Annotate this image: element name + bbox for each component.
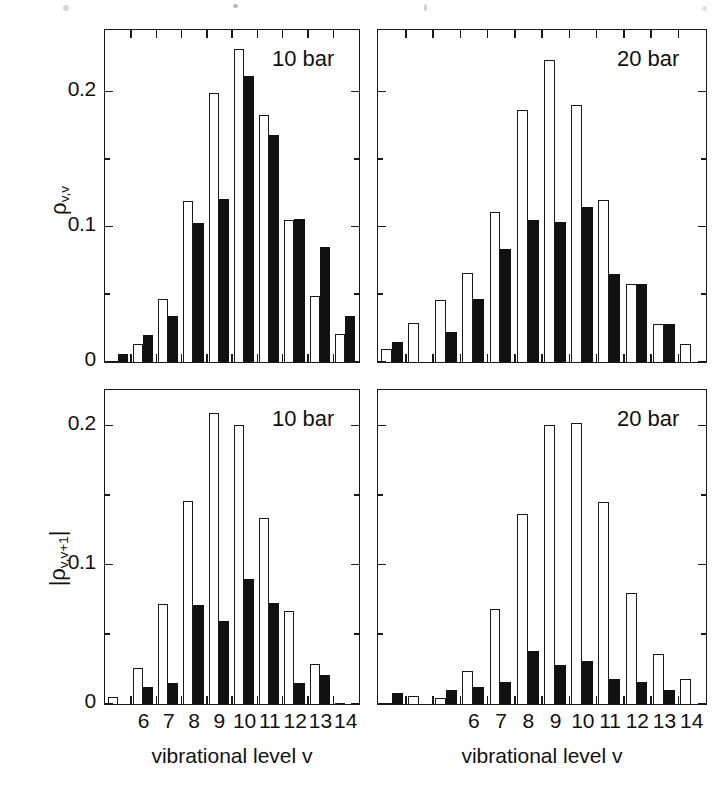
bar-filled <box>219 621 229 704</box>
figure-canvas: 10 bar 20 bar 10 bar 20 bar ρv,v |ρv,v+1… <box>0 0 722 786</box>
bar-filled <box>143 335 153 362</box>
bar-open <box>435 300 446 362</box>
bar-group <box>514 390 541 704</box>
bar-group <box>257 30 282 362</box>
bar-open <box>517 110 528 362</box>
x-tick <box>650 354 652 362</box>
y-tick <box>105 91 113 93</box>
x-tick-top <box>282 30 284 38</box>
x-tick-top <box>596 30 598 38</box>
bar-filled <box>219 199 229 362</box>
bar-open <box>234 425 244 704</box>
y-tick-right <box>698 361 706 363</box>
x-tick <box>181 696 183 704</box>
y-tick <box>378 564 386 566</box>
bar-filled <box>528 651 539 704</box>
x-tick <box>650 696 652 704</box>
bar-open <box>571 105 582 362</box>
bar-filled <box>345 316 355 362</box>
bar-group <box>181 30 206 362</box>
bar-group <box>677 30 704 362</box>
bar-open <box>490 609 501 704</box>
bar-group <box>405 390 432 704</box>
y-tick <box>105 293 110 295</box>
plot-area-top-left <box>105 30 359 362</box>
x-tick <box>432 354 434 362</box>
bar-open <box>680 679 691 704</box>
bar-group <box>156 390 181 704</box>
bar-filled <box>320 247 330 362</box>
bar-group <box>307 30 332 362</box>
x-tick <box>569 354 571 362</box>
bar-group <box>623 390 650 704</box>
bar-open <box>408 696 419 704</box>
y-tick-label: 0.1 <box>36 212 96 236</box>
bar-open <box>544 425 555 704</box>
bar-filled <box>609 274 620 362</box>
x-tick <box>678 354 680 362</box>
bar-group <box>432 30 459 362</box>
bar-filled <box>446 690 457 704</box>
bar-open <box>133 344 143 362</box>
x-tick-top <box>650 30 652 38</box>
x-tick <box>623 354 625 362</box>
bar-group <box>623 30 650 362</box>
bar-group <box>307 390 332 704</box>
y-tick-right <box>351 361 359 363</box>
bar-group <box>282 30 307 362</box>
bar-filled <box>637 284 648 362</box>
y-tick <box>378 425 386 427</box>
y-tick-right <box>351 564 359 566</box>
x-tick <box>405 354 407 362</box>
x-tick <box>623 696 625 704</box>
bar-group <box>206 30 231 362</box>
x-tick <box>282 696 284 704</box>
bar-open <box>462 273 473 362</box>
bar-group <box>105 390 130 704</box>
bar-filled <box>168 683 178 704</box>
x-tick-top <box>333 30 335 38</box>
x-tick-top <box>541 30 543 38</box>
x-tick <box>307 696 309 704</box>
y-tick <box>105 361 113 363</box>
x-tick-top <box>307 30 309 38</box>
bar-open <box>310 664 320 704</box>
x-tick-top <box>569 30 571 38</box>
bar-filled <box>609 679 620 704</box>
y-tick-right <box>698 226 706 228</box>
bar-group <box>569 390 596 704</box>
x-tick-top <box>623 30 625 38</box>
panel-note-top-right: 20 bar <box>617 46 679 72</box>
bar-open <box>335 334 345 362</box>
panel-note-top-left: 10 bar <box>272 46 334 72</box>
x-tick <box>282 354 284 362</box>
y-tick-right <box>351 425 359 427</box>
bar-filled <box>269 603 279 704</box>
x-axis-title-left: vibrational level v <box>104 744 360 768</box>
bar-group <box>487 30 514 362</box>
x-tick-top <box>181 30 183 38</box>
y-tick-right <box>351 91 359 93</box>
bar-group <box>105 30 130 362</box>
x-tick-top <box>257 30 259 38</box>
bar-open <box>435 698 446 704</box>
y-tick-right <box>701 158 706 160</box>
bar-filled <box>294 219 304 362</box>
bar-group <box>460 30 487 362</box>
y-tick-right <box>354 293 359 295</box>
bar-open <box>259 115 269 362</box>
bar-group <box>156 30 181 362</box>
bar-filled <box>446 332 457 362</box>
plot-area-top-right <box>378 30 706 362</box>
y-axis-title-bottom-bar: | <box>45 530 70 536</box>
bar-filled <box>392 342 403 362</box>
bar-open <box>183 201 193 362</box>
bar-filled <box>193 605 203 704</box>
bar-filled <box>555 665 566 704</box>
x-tick-top <box>460 30 462 38</box>
x-tick <box>678 696 680 704</box>
y-tick <box>378 293 383 295</box>
bar-filled <box>294 683 304 704</box>
bar-group <box>514 30 541 362</box>
y-tick <box>105 226 113 228</box>
